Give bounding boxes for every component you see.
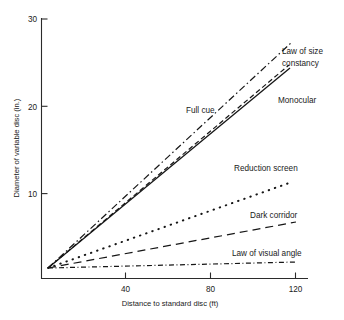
series-line-law-of-size-constancy xyxy=(48,42,292,268)
series-label-monocular: Monocular xyxy=(278,96,317,105)
y-ticklabel-20: 20 xyxy=(28,103,38,112)
chart-figure: 30 20 10 40 80 120 Distance to standard … xyxy=(0,0,344,320)
chart-svg: 30 20 10 40 80 120 Distance to standard … xyxy=(0,0,344,320)
x-ticklabel-80: 80 xyxy=(206,285,216,294)
x-axis-title: Distance to standard disc (ft) xyxy=(122,299,219,308)
series-line-dark-corridor xyxy=(48,222,296,268)
series-label-reduction-screen: Reduction screen xyxy=(234,164,298,173)
x-ticklabel-120: 120 xyxy=(289,285,303,294)
series-label-law-of-visual-angle: Law of visual angle xyxy=(232,249,302,258)
series-label-dark-corridor: Dark corridor xyxy=(250,211,298,220)
series-label-law-of-size-constancy-line1: Law of size xyxy=(282,47,323,56)
x-ticklabel-40: 40 xyxy=(121,285,131,294)
series-label-law-of-size-constancy-line2: constancy xyxy=(282,59,320,68)
y-axis-title: Diameter of variable disc (in.) xyxy=(12,98,21,197)
y-ticklabel-30: 30 xyxy=(28,15,38,24)
y-ticklabel-10: 10 xyxy=(28,190,38,199)
series-line-law-of-visual-angle xyxy=(48,262,296,268)
series-label-full-cue: Full cue xyxy=(186,106,215,115)
